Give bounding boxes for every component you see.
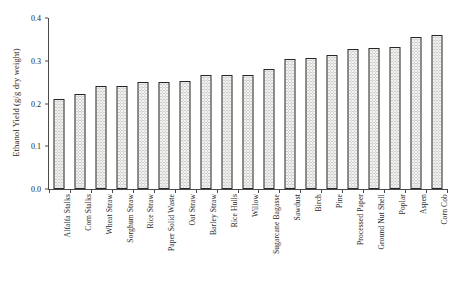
x-axis-category-label-text: Corn Stalks — [84, 194, 93, 231]
bar-slot — [363, 18, 384, 189]
x-axis-tick-mark — [279, 189, 280, 193]
y-axis-tick-label: 0.2 — [0, 99, 45, 108]
bar — [222, 75, 233, 189]
bar-slot — [342, 18, 363, 189]
x-axis-category-labels: Alfalfa StalksCorn StalksWheat StrawSorg… — [49, 194, 447, 284]
bar — [305, 58, 316, 189]
bar — [180, 81, 191, 189]
bar — [389, 47, 400, 189]
bar — [138, 82, 149, 189]
bar — [54, 99, 65, 189]
x-axis-category-label-text: Wheat Straw — [105, 194, 114, 235]
x-axis-category-label: Corn Cob — [440, 194, 449, 225]
x-axis-tick-mark — [342, 189, 343, 193]
x-axis-category-label: Barley Straw — [209, 194, 218, 235]
bar-slot — [300, 18, 321, 189]
ethanol-yield-bar-chart: Ethanol Yield (g/g dry weight) 0.00.10.2… — [0, 0, 452, 284]
bar — [431, 35, 442, 189]
x-axis-category-label-text: Ground Nut Shell — [377, 194, 386, 250]
x-axis-category-label-text: Willow — [251, 194, 260, 217]
bar-slot — [70, 18, 91, 189]
x-axis-tick-mark — [91, 189, 92, 193]
x-axis-category-label: Paper Solid Waste — [167, 194, 176, 251]
bar — [410, 37, 421, 189]
bar-slot — [154, 18, 175, 189]
x-axis-category-label: Poplar — [398, 194, 407, 214]
x-axis-category-label-text: Aspen — [419, 194, 428, 214]
x-axis-tick-mark — [426, 189, 427, 193]
bar-slot — [91, 18, 112, 189]
x-axis-category-label-text: Poplar — [398, 194, 407, 214]
y-axis-tick-label: 0.1 — [0, 142, 45, 151]
bar-slot — [196, 18, 217, 189]
x-axis-tick-mark — [300, 189, 301, 193]
x-axis-tick-mark — [405, 189, 406, 193]
bar-slot — [279, 18, 300, 189]
bar-slot — [426, 18, 447, 189]
x-axis-tick-mark — [175, 189, 176, 193]
bar — [96, 86, 107, 189]
x-axis-category-label-text: Paper Solid Waste — [167, 194, 176, 251]
x-axis-tick-mark — [258, 189, 259, 193]
x-axis-tick-mark — [154, 189, 155, 193]
x-axis-tick-mark — [49, 189, 50, 193]
x-axis-tick-mark — [112, 189, 113, 193]
x-axis-category-label: Processed Paper — [356, 194, 365, 245]
x-axis-category-label: Rice Hulls — [230, 194, 239, 227]
x-axis-category-label: Sugarcane Bagasse — [272, 194, 281, 254]
x-axis-category-label: Willow — [251, 194, 260, 217]
bar — [242, 75, 253, 189]
bar — [368, 48, 379, 189]
y-axis-tick-label: 0.0 — [0, 185, 45, 194]
bar-slot — [258, 18, 279, 189]
bar — [201, 75, 212, 189]
x-axis-category-label-text: Sawdust — [293, 194, 302, 220]
x-axis-tick-mark — [384, 189, 385, 193]
x-axis-tick-mark — [363, 189, 364, 193]
x-axis-category-label: Birch — [314, 194, 323, 211]
bar — [159, 82, 170, 189]
x-axis-tick-mark — [321, 189, 322, 193]
bar-slot — [384, 18, 405, 189]
x-axis-tick-mark — [238, 189, 239, 193]
x-axis-category-label-text: Corn Cob — [440, 194, 449, 225]
bar-slot — [112, 18, 133, 189]
x-axis-category-label: Alfalfa Stalks — [63, 194, 72, 237]
x-axis-tick-mark — [133, 189, 134, 193]
x-axis-category-label-text: Sorghum Straw — [126, 194, 135, 243]
x-axis-category-label-text: Barley Straw — [209, 194, 218, 235]
x-axis-tick-mark — [70, 189, 71, 193]
bar — [284, 59, 295, 189]
x-axis-category-label: Oat Straw — [188, 194, 197, 225]
x-axis-tick-mark — [447, 189, 448, 193]
x-axis-category-label: Ground Nut Shell — [377, 194, 386, 250]
x-axis-category-label-text: Oat Straw — [188, 194, 197, 225]
bar-slot — [321, 18, 342, 189]
y-axis-tick-labels: 0.00.10.20.30.4 — [0, 0, 45, 284]
x-axis-category-label: Sorghum Straw — [126, 194, 135, 243]
x-axis-category-label: Corn Stalks — [84, 194, 93, 231]
y-axis-tick-label: 0.4 — [0, 14, 45, 23]
x-axis-tick-mark — [196, 189, 197, 193]
x-axis-category-label: Pine — [335, 194, 344, 208]
x-axis-category-label-text: Sugarcane Bagasse — [272, 194, 281, 254]
bar — [347, 49, 358, 189]
bar — [75, 94, 86, 189]
x-axis-category-label: Wheat Straw — [105, 194, 114, 235]
bar-slot — [175, 18, 196, 189]
x-axis-category-label-text: Alfalfa Stalks — [63, 194, 72, 237]
x-axis-category-label-text: Pine — [335, 194, 344, 208]
bar — [117, 86, 128, 189]
x-axis-category-label-text: Birch — [314, 194, 323, 211]
bar-slot — [405, 18, 426, 189]
bar-slot — [49, 18, 70, 189]
bar-slot — [217, 18, 238, 189]
bar-slot — [238, 18, 259, 189]
bar — [326, 55, 337, 189]
x-axis-category-label: Aspen — [419, 194, 428, 214]
x-axis-tick-mark — [217, 189, 218, 193]
x-axis-category-label-text: Rice Hulls — [230, 194, 239, 227]
x-axis-category-label: Rice Straw — [146, 194, 155, 229]
x-axis-category-label-text: Processed Paper — [356, 194, 365, 245]
plot-area — [49, 18, 447, 189]
